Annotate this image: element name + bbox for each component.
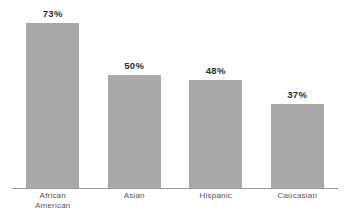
plot-area: 73% 50% 48% 37% — [0, 0, 348, 188]
x-axis-line — [12, 188, 338, 189]
category-label-line1: Asian — [124, 191, 145, 200]
bar-value-label: 37% — [287, 89, 307, 100]
category-label-line2: American — [16, 201, 90, 211]
bar-value-label: 48% — [206, 65, 226, 76]
bar-group: 50% — [97, 0, 171, 188]
category-label-line1: Caucasian — [277, 191, 317, 200]
category-label: African American — [16, 191, 90, 223]
bar-group: 48% — [179, 0, 253, 188]
bar-chart: 73% 50% 48% 37% African American Asian — [0, 0, 348, 223]
category-label: Asian — [97, 191, 171, 223]
bar-rect[interactable] — [189, 80, 242, 188]
bar-value-label: 50% — [124, 60, 144, 71]
bar-group: 37% — [260, 0, 334, 188]
category-label-line1: African — [40, 191, 66, 200]
bar-group: 73% — [16, 0, 90, 188]
bar-rect[interactable] — [26, 23, 79, 188]
category-label-line1: Hispanic — [200, 191, 232, 200]
bars-container: 73% 50% 48% 37% — [12, 0, 338, 188]
bar-rect[interactable] — [271, 104, 324, 188]
bar-value-label: 73% — [43, 8, 63, 19]
bar-rect[interactable] — [108, 75, 161, 188]
x-axis-labels: African American Asian Hispanic Caucasia… — [12, 191, 338, 223]
category-label: Hispanic — [179, 191, 253, 223]
category-label: Caucasian — [260, 191, 334, 223]
